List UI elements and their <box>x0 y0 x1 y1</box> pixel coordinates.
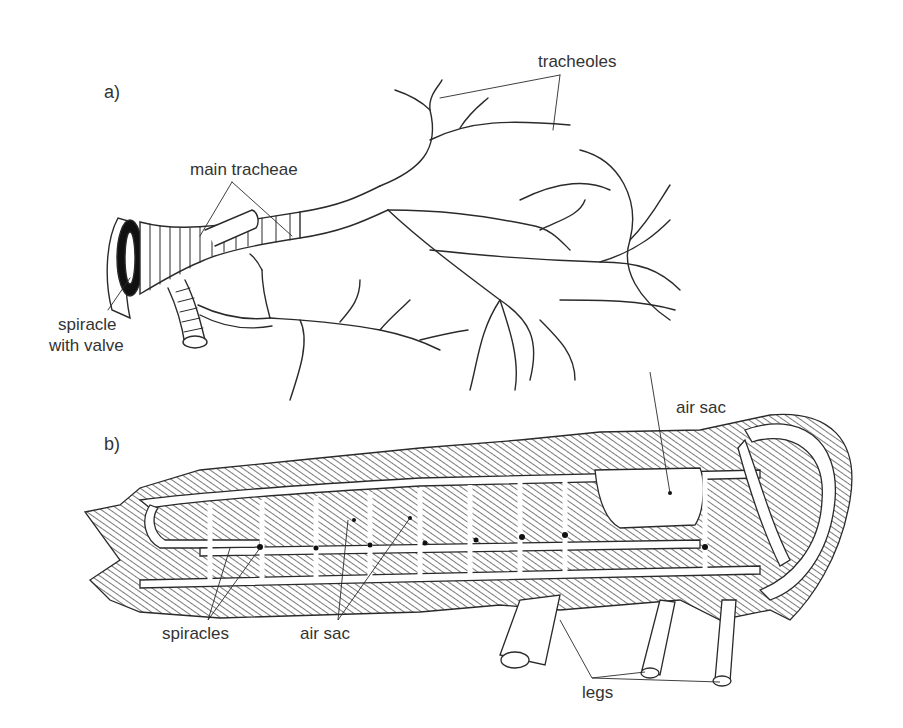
air-sac-bottom-label: air sac <box>300 624 350 644</box>
spiracles-label: spiracles <box>162 624 229 644</box>
main-tracheae-label: main tracheae <box>190 160 298 180</box>
air-sac-top-label: air sac <box>676 398 726 418</box>
spiracle-label-line2: with valve <box>49 336 124 356</box>
panel-b-label: b) <box>104 434 120 454</box>
panel-a-drawing <box>107 75 680 400</box>
legs-label: legs <box>582 683 613 703</box>
tracheal-system-diagram <box>0 0 903 728</box>
tracheoles-label: tracheoles <box>538 52 616 72</box>
spiracle-label-line1: spiracle <box>58 315 117 335</box>
panel-a-label: a) <box>104 82 120 102</box>
